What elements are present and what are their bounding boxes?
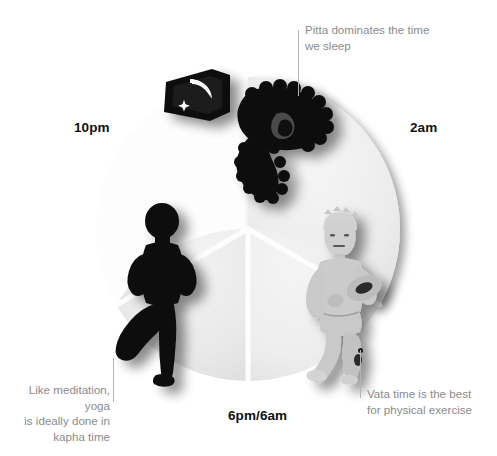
- time-label-6pm-6am: 6pm/6am: [228, 408, 287, 423]
- ayurveda-dosha-clock-diagram: 10pm 2am 6pm/6am Pitta dominates the tim…: [0, 0, 497, 456]
- annotation-vata: Vata time is the best for physical exerc…: [367, 386, 492, 417]
- yoga-tree-pose-silhouette-icon: [110, 203, 218, 388]
- time-label-2am: 2am: [410, 120, 437, 135]
- annotation-kapha: Like meditation, yoga is ideally done in…: [10, 382, 110, 444]
- time-label-10pm: 10pm: [74, 120, 110, 135]
- leader-line-pitta: [298, 30, 299, 96]
- leader-line-vata: [360, 350, 361, 398]
- running-person-with-football-icon: [300, 208, 396, 383]
- annotation-pitta: Pitta dominates the time we sleep: [305, 22, 445, 53]
- leader-line-kapha: [113, 358, 114, 402]
- sleeping-person-in-bed-icon: [216, 74, 346, 204]
